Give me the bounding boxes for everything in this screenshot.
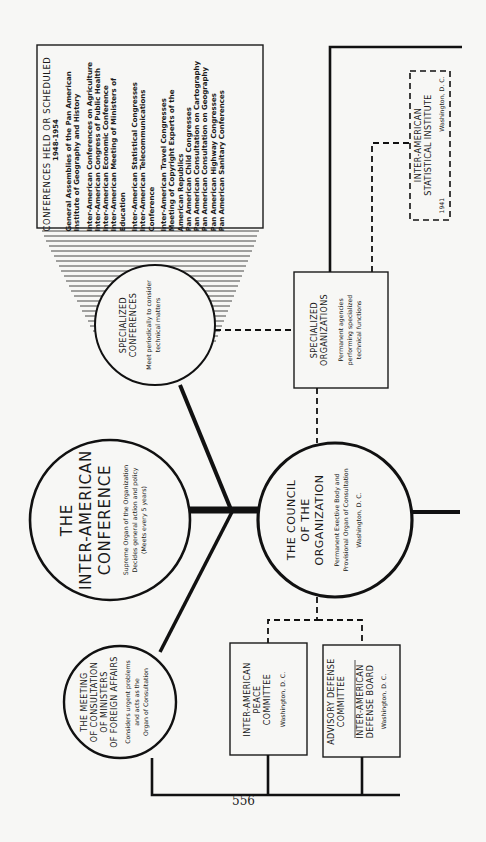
- conference-item: Inter-American Travel Congresses: [159, 49, 167, 232]
- council-node: THE COUNCIL OF THE ORGANIZATION Permanen…: [285, 455, 385, 585]
- node-title: OF CONSULTATION: [90, 652, 100, 752]
- node-title: CONFERENCE: [96, 450, 115, 590]
- defense-node: ADVISORY DEFENSE COMMITTEE INTER-AMERICA…: [323, 645, 400, 757]
- node-title: SPECIALIZED: [119, 270, 129, 380]
- location: Washington, D. C.: [378, 645, 387, 757]
- node-desc: Meet periodically to consider: [144, 270, 153, 380]
- node-desc: Decides general action and policy: [130, 450, 139, 590]
- node-title: INTER-AMERICAN: [410, 71, 423, 220]
- specialized-conferences-node: SPECIALIZED CONFERENCES Meet periodicall…: [115, 270, 195, 380]
- node-title: INTER-AMERICAN: [355, 645, 365, 757]
- node-title: COMMITTEE: [262, 643, 272, 755]
- node-title: INTER-AMERICAN: [242, 643, 252, 755]
- node-desc: (Meets every 5 years): [139, 450, 148, 590]
- conferences-items: General Assemblies of the Pan American I…: [64, 49, 225, 232]
- conference-item: Inter-American Meeting of Ministers of: [109, 49, 117, 232]
- specialized-organizations-node: SPECIALIZED ORGANIZATIONS Permanent agen…: [294, 272, 388, 388]
- conference-item: Pan American Consultation on Geography: [200, 49, 208, 232]
- conference-item: Pan American Child Congresses: [184, 49, 192, 232]
- node-desc: Permanent agencies: [336, 272, 345, 388]
- node-title: ORGANIZATIONS: [320, 272, 330, 388]
- conference-item: Inter-American Economic Conference: [101, 49, 109, 232]
- node-desc: performing specialized: [345, 272, 354, 388]
- conference-item: General Assemblies of the Pan American: [64, 49, 72, 232]
- statistical-institute-node: INTER-AMERICAN STATISTICAL INSTITUTE 194…: [410, 71, 450, 220]
- conference-item: Pan American Highway Congresses: [209, 49, 217, 232]
- inter-american-conference-node: THE INTER-AMERICAN CONFERENCE Supreme Or…: [58, 450, 162, 590]
- node-title: THE: [58, 450, 77, 590]
- node-title: ORGANIZATION: [313, 455, 327, 585]
- conference-item: Education: [118, 49, 126, 232]
- conference-item: Pan American Sanitary Conferences: [217, 49, 225, 232]
- conference-item: Meeting of Copyright Experts of the: [167, 49, 175, 232]
- conferences-title: CONFERENCES HELD OR SCHEDULED: [41, 49, 51, 232]
- conference-item: Inter-American Conferences on Agricultur…: [85, 49, 93, 232]
- conference-item: Inter-American Statistical Congresses: [130, 49, 138, 232]
- meeting-of-consultation-node: THE MEETING OF CONSULTATION OF MINISTERS…: [80, 652, 160, 752]
- node-title: SPECIALIZED: [310, 272, 320, 388]
- node-title: DEFENSE BOARD: [365, 645, 375, 757]
- node-desc: technical functions: [354, 272, 363, 388]
- node-title: THE MEETING: [80, 652, 90, 752]
- conferences-years: 1948-1954: [51, 49, 60, 232]
- conferences-list: CONFERENCES HELD OR SCHEDULED 1948-1954 …: [37, 45, 271, 236]
- conference-item: Inter-American Telecommunications: [138, 49, 146, 232]
- location: Washington, D. C.: [354, 455, 363, 585]
- conference-item: Conference: [147, 49, 155, 232]
- node-title: STATISTICAL INSTITUTE: [423, 71, 433, 220]
- node-title: PEACE: [252, 643, 262, 755]
- node-desc: technical matters: [153, 270, 162, 380]
- location: Washington, D. C.: [277, 643, 286, 755]
- node-title: OF MINISTERS: [100, 652, 110, 752]
- node-title: OF FOREIGN AFFAIRS: [110, 652, 120, 752]
- conference-item: Institute of Geography and History: [72, 49, 80, 232]
- conference-item: American Republics: [176, 49, 184, 232]
- node-desc: Organ of Consultation: [141, 652, 150, 752]
- peace-committee-node: INTER-AMERICAN PEACE COMMITTEE Washingto…: [230, 643, 307, 755]
- node-title: CONFERENCES: [129, 270, 139, 380]
- node-desc: Supreme Organ of the Organization: [121, 450, 130, 590]
- node-desc: Permanent Exective Body and: [332, 455, 341, 585]
- node-title: INTER-AMERICAN: [77, 450, 96, 590]
- node-desc: Considers urgent problems: [123, 652, 132, 752]
- node-desc: Provisional Organ of Consultation: [341, 455, 350, 585]
- founded-year: 1941: [436, 198, 445, 214]
- node-desc: and acts as the: [132, 652, 141, 752]
- location: Washington, D. C.: [436, 77, 445, 132]
- page-number: 556: [232, 794, 255, 808]
- node-title: ADVISORY DEFENSE: [326, 645, 336, 757]
- node-title: OF THE: [299, 455, 313, 585]
- conference-item: Inter-American Congress of Public Health: [93, 49, 101, 232]
- node-title: THE COUNCIL: [285, 455, 299, 585]
- node-title: COMMITTEE: [336, 645, 346, 757]
- conference-item: Pan American Consultation on Cartography: [192, 49, 200, 232]
